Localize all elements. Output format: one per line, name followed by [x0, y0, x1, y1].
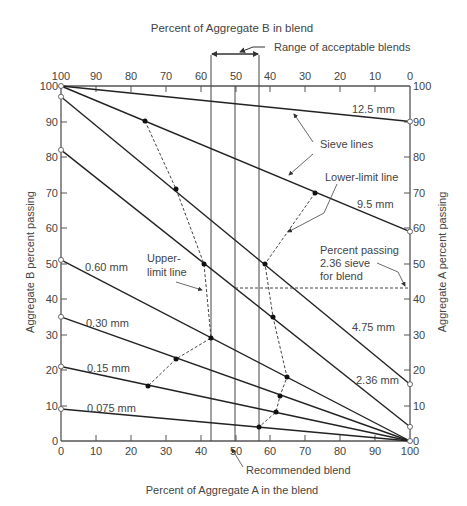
svg-text:10: 10 [369, 70, 381, 82]
svg-text:40: 40 [413, 293, 425, 305]
svg-text:0.60 mm: 0.60 mm [85, 261, 128, 273]
svg-text:20: 20 [46, 364, 58, 376]
svg-text:2.36 sieve: 2.36 sieve [320, 257, 370, 269]
svg-text:30: 30 [160, 445, 172, 457]
top-tick-labels: 1009080706050403020100 [52, 70, 413, 82]
svg-text:70: 70 [46, 187, 58, 199]
svg-text:Lower-limit line: Lower-limit line [325, 171, 398, 183]
svg-text:0.15 mm: 0.15 mm [87, 362, 130, 374]
svg-text:100: 100 [40, 80, 58, 92]
svg-text:10: 10 [46, 400, 58, 412]
svg-text:60: 60 [195, 70, 207, 82]
svg-text:Upper-: Upper- [147, 252, 181, 264]
svg-text:20: 20 [334, 70, 346, 82]
left-axis-title: Aggregate B percent passing [24, 191, 36, 333]
svg-text:20: 20 [125, 445, 137, 457]
blend-vertical-lines [211, 55, 259, 441]
right-axis-title: Aggregate A percent passing [436, 192, 448, 333]
svg-text:100: 100 [413, 80, 431, 92]
svg-text:30: 30 [46, 329, 58, 341]
svg-text:80: 80 [46, 151, 58, 163]
svg-text:4.75 mm: 4.75 mm [352, 321, 395, 333]
bottom-tick-labels: 0102030405060708090100 [58, 445, 419, 457]
svg-text:10: 10 [413, 400, 425, 412]
svg-text:30: 30 [413, 329, 425, 341]
lower-limit-points [257, 191, 318, 430]
right-tick-labels: 0102030405060708090100 [413, 80, 431, 447]
svg-text:2.36 mm: 2.36 mm [356, 374, 399, 386]
svg-text:70: 70 [413, 187, 425, 199]
range-label: Range of acceptable blends [274, 41, 411, 53]
svg-text:40: 40 [195, 445, 207, 457]
svg-text:0.30 mm: 0.30 mm [86, 317, 129, 329]
svg-text:0.075 mm: 0.075 mm [87, 402, 136, 414]
blend-chart: Percent of Aggregate B in blend Percent … [0, 0, 467, 506]
svg-text:90: 90 [46, 116, 58, 128]
svg-text:60: 60 [413, 222, 425, 234]
svg-text:90: 90 [413, 116, 425, 128]
annotation-labels: Sieve lines Lower-limit line Upper- limi… [147, 138, 399, 476]
svg-text:60: 60 [46, 222, 58, 234]
svg-text:limit line: limit line [147, 266, 187, 278]
svg-text:Recommended blend: Recommended blend [246, 464, 351, 476]
top-axis-title: Percent of Aggregate B in blend [151, 22, 313, 34]
bottom-axis-title: Percent of Aggregate A in the blend [146, 484, 318, 496]
svg-text:80: 80 [334, 445, 346, 457]
svg-text:50: 50 [46, 258, 58, 270]
svg-text:90: 90 [90, 70, 102, 82]
svg-text:40: 40 [264, 70, 276, 82]
svg-text:12.5 mm: 12.5 mm [352, 103, 395, 115]
svg-text:0: 0 [52, 435, 58, 447]
svg-text:Sieve lines: Sieve lines [320, 138, 374, 150]
svg-text:50: 50 [230, 70, 242, 82]
svg-text:80: 80 [125, 70, 137, 82]
svg-text:80: 80 [413, 151, 425, 163]
svg-text:50: 50 [413, 258, 425, 270]
annotation-arrows [176, 114, 405, 467]
svg-text:70: 70 [299, 445, 311, 457]
svg-text:Percent passing: Percent passing [320, 244, 399, 256]
svg-text:40: 40 [46, 293, 58, 305]
svg-text:90: 90 [369, 445, 381, 457]
svg-text:9.5 mm: 9.5 mm [357, 198, 394, 210]
range-bracket [212, 47, 265, 54]
svg-text:60: 60 [264, 445, 276, 457]
left-tick-labels: 0102030405060708090100 [40, 80, 58, 447]
svg-text:10: 10 [90, 445, 102, 457]
svg-text:70: 70 [160, 70, 172, 82]
svg-text:0: 0 [58, 445, 64, 457]
svg-text:0: 0 [413, 435, 419, 447]
lower-limit-line [259, 193, 315, 427]
svg-text:20: 20 [413, 364, 425, 376]
svg-text:30: 30 [299, 70, 311, 82]
svg-text:for blend: for blend [320, 270, 363, 282]
